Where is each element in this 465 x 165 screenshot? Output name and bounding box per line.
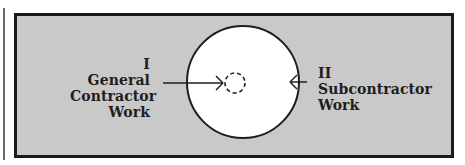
label-line: Work: [70, 104, 150, 120]
label-line: General: [70, 72, 150, 88]
numeral-i: I: [70, 56, 150, 72]
subcontractor-label: II Subcontractor Work: [318, 65, 432, 113]
numeral-ii: II: [318, 65, 432, 81]
label-line: Contractor: [70, 88, 150, 104]
label-line: Subcontractor: [318, 81, 432, 97]
general-contractor-label: I General Contractor Work: [70, 56, 150, 120]
label-line: Work: [318, 97, 432, 113]
outer-circle: [187, 26, 299, 138]
